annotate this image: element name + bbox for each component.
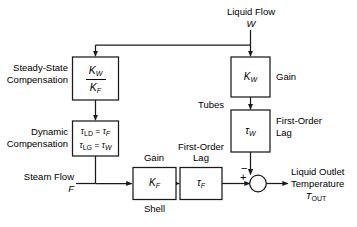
kw-subscript: W	[251, 76, 258, 83]
shell-lag-caption-line2: Lag	[171, 152, 231, 164]
tubes-gain-caption: Gain	[276, 71, 326, 83]
dynamic-compensation-label-line1: Dynamic	[0, 126, 68, 138]
output-t-out-symbol: TOUT	[291, 190, 341, 203]
input-steam-flow-variable: F	[0, 183, 74, 195]
tau-f-subscript-1: F	[106, 130, 110, 137]
kf-base: K	[149, 177, 156, 188]
tubes-gain-symbol: KW	[231, 71, 270, 82]
summing-junction-plus-sign: +	[240, 172, 246, 183]
tubes-lag-symbol: τW	[231, 125, 270, 136]
block-diagram: Liquid Flow W Steady-State Compensation …	[0, 0, 357, 227]
input-liquid-flow-label: Liquid Flow	[212, 6, 290, 18]
equals-sign-2: =	[92, 140, 102, 150]
tau-f-subscript-2: F	[201, 182, 205, 189]
tubes-lag-caption-line2: Lag	[276, 127, 340, 139]
tau-lg-subscript: LG	[83, 144, 92, 151]
kf-denominator-subscript: F	[97, 87, 101, 94]
fraction-numerator: KW	[73, 64, 119, 78]
kw-numerator-subscript: W	[96, 70, 103, 77]
input-steam-flow-label: Steam Flow	[0, 171, 74, 183]
equals-sign-1: =	[93, 126, 103, 136]
shell-caption: Shell	[133, 203, 176, 215]
steady-state-compensation-label-line2: Compensation	[0, 74, 68, 86]
dynamic-compensation-label-line2: Compensation	[0, 138, 68, 150]
tau-ld-subscript: LD	[84, 130, 93, 137]
tubes-caption: Tubes	[176, 99, 224, 111]
tau-w-subscript-2: W	[249, 130, 256, 137]
shell-gain-symbol: KF	[133, 177, 176, 188]
kf-subscript: F	[156, 182, 160, 189]
steady-state-gain-fraction: KW KF	[73, 64, 119, 95]
dynamic-compensation-equation-2: τLG = τW	[73, 140, 119, 151]
kw-base: K	[244, 71, 251, 82]
fraction-denominator: KF	[73, 81, 119, 95]
t-out-subscript: OUT	[312, 195, 327, 202]
tubes-lag-caption-line1: First-Order	[276, 115, 340, 127]
t-out-base: T	[306, 190, 312, 201]
output-liquid-outlet-line1: Liquid Outlet	[291, 166, 357, 178]
shell-lag-symbol: τF	[180, 177, 222, 188]
input-liquid-flow-variable: W	[212, 18, 290, 30]
shell-lag-caption-line1: First-Order	[171, 141, 231, 153]
steady-state-compensation-label-line1: Steady-State	[0, 62, 68, 74]
summing-junction-circle	[250, 175, 267, 192]
fraction-bar	[86, 79, 106, 80]
kw-numerator-base: K	[89, 64, 96, 76]
tau-w-subscript-1: W	[105, 144, 112, 151]
output-liquid-outlet-line2: Temperature	[291, 178, 357, 190]
kf-denominator-base: K	[90, 81, 97, 93]
dynamic-compensation-equation-1: τLD = τF	[73, 126, 119, 137]
